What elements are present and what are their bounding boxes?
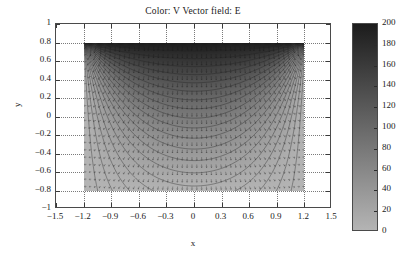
y-tick-mark [56, 154, 60, 155]
colorbar-tick-label: 60 [382, 163, 391, 173]
x-tick-mark [249, 24, 250, 28]
y-tick-label: −0.6 [17, 165, 51, 175]
colorbar-tick-label: 180 [382, 38, 396, 48]
y-tick-label: −1 [17, 202, 51, 212]
y-tick-mark [326, 117, 330, 118]
colorbar-tick-mark [374, 190, 377, 191]
plot-title: Color: V Vector field: E [55, 6, 331, 16]
equipotential-contours [84, 43, 305, 191]
y-axis-label: y [12, 103, 22, 108]
y-tick-mark [56, 135, 60, 136]
colorbar-tick-mark [374, 45, 377, 46]
x-tick-mark [194, 24, 195, 28]
x-tick-mark [139, 24, 140, 28]
y-tick-mark [326, 43, 330, 44]
x-axis-label: x [55, 238, 331, 248]
y-tick-label: 1 [17, 17, 51, 27]
y-tick-label: −0.2 [17, 128, 51, 138]
colorbar-tick-mark [374, 149, 377, 150]
y-tick-label: 0.6 [17, 54, 51, 64]
x-tick-mark [277, 203, 278, 207]
gridline-horizontal [56, 191, 330, 192]
colorbar-tick-label: 160 [382, 59, 396, 69]
y-tick-mark [56, 98, 60, 99]
x-tick-mark [222, 203, 223, 207]
y-tick-label: 0.4 [17, 73, 51, 83]
y-tick-label: 0.2 [17, 91, 51, 101]
y-tick-mark [56, 80, 60, 81]
x-tick-mark [84, 203, 85, 207]
figure-canvas: Color: V Vector field: E −1.5−1.2−0.9−0.… [0, 0, 415, 264]
y-tick-mark [56, 43, 60, 44]
y-tick-mark [56, 172, 60, 173]
x-tick-mark [166, 24, 167, 28]
colorbar-tick-mark [374, 86, 377, 87]
y-tick-mark [326, 172, 330, 173]
gridline-vertical [304, 24, 305, 207]
x-tick-mark [56, 203, 57, 207]
colorbar-tick-label: 200 [382, 17, 396, 27]
colorbar-tick-mark [374, 107, 377, 108]
y-tick-mark [326, 154, 330, 155]
x-tick-mark [277, 24, 278, 28]
x-tick-mark [166, 203, 167, 207]
x-tick-mark [111, 24, 112, 28]
x-tick-mark [304, 203, 305, 207]
y-tick-mark [56, 24, 60, 25]
x-tick-label: 1.5 [311, 211, 351, 221]
colorbar-tick-label: 140 [382, 79, 396, 89]
y-tick-mark [326, 98, 330, 99]
y-tick-mark [326, 61, 330, 62]
colorbar-tick-label: 80 [382, 142, 391, 152]
colorbar-tick-mark [374, 128, 377, 129]
colorbar-tick-label: 40 [382, 183, 391, 193]
x-tick-mark [139, 203, 140, 207]
colorbar-tick-mark [374, 170, 377, 171]
colorbar-tick-label: 100 [382, 121, 396, 131]
x-tick-mark [111, 203, 112, 207]
y-tick-label: −0.8 [17, 184, 51, 194]
y-tick-mark [326, 24, 330, 25]
y-tick-mark [326, 80, 330, 81]
y-tick-label: 0 [17, 110, 51, 120]
y-tick-label: 0.8 [17, 36, 51, 46]
colorbar-tick-mark [374, 66, 377, 67]
y-tick-mark [56, 61, 60, 62]
colorbar-tick-label: 20 [382, 204, 391, 214]
colorbar [352, 23, 378, 231]
x-tick-mark [222, 24, 223, 28]
colorbar-gradient [353, 24, 377, 230]
colorbar-tick-label: 0 [382, 225, 387, 235]
plot-axes [55, 23, 331, 208]
y-tick-mark [326, 191, 330, 192]
y-tick-label: −0.4 [17, 147, 51, 157]
colorbar-tick-label: 120 [382, 100, 396, 110]
x-tick-mark [194, 203, 195, 207]
x-tick-mark [304, 24, 305, 28]
y-tick-mark [326, 135, 330, 136]
y-tick-mark [56, 191, 60, 192]
x-tick-mark [249, 203, 250, 207]
y-tick-mark [56, 117, 60, 118]
x-tick-mark [84, 24, 85, 28]
colorbar-tick-mark [374, 211, 377, 212]
data-patch [84, 43, 305, 191]
